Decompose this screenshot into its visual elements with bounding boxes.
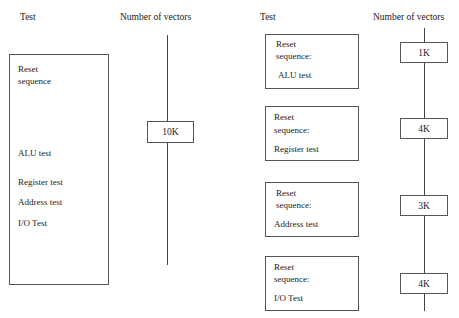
combined-test-box: Reset sequence ALU test Register test Ad…: [9, 54, 109, 285]
vector-count-box: 10K: [147, 121, 194, 143]
test-label: Reset: [276, 39, 296, 50]
test-box-alu: Reset sequence: ALU test: [265, 34, 359, 89]
left-test-header: Test: [20, 12, 36, 22]
test-label: sequence: [18, 76, 51, 87]
test-label: Address test: [274, 219, 318, 230]
test-box-register: Reset sequence: Register test: [265, 106, 359, 161]
vector-count-box: 4K: [400, 118, 448, 139]
vector-axis-line: [424, 28, 425, 311]
test-label: sequence:: [274, 125, 309, 136]
vector-count-box: 4K: [400, 273, 448, 294]
right-test-header: Test: [260, 12, 276, 22]
test-label: ALU test: [18, 148, 51, 159]
test-label: sequence:: [274, 274, 309, 285]
test-label: Reset: [276, 188, 296, 199]
vector-count-box: 3K: [400, 195, 448, 216]
test-box-io: Reset sequence: I/O Test: [265, 256, 359, 311]
test-box-address: Reset sequence: Address test: [265, 182, 359, 237]
vector-axis-line: [167, 35, 168, 265]
left-vectors-header: Number of vectors: [120, 12, 191, 22]
test-label: Reset: [274, 262, 294, 273]
test-label: sequence:: [276, 51, 311, 62]
test-label: ALU test: [278, 70, 311, 81]
test-label: sequence:: [276, 200, 311, 211]
test-label: Reset: [274, 112, 294, 123]
test-label: I/O Test: [274, 293, 303, 304]
right-vectors-header: Number of vectors: [373, 12, 444, 22]
test-label: Address test: [18, 197, 62, 208]
test-label: Register test: [18, 177, 63, 188]
test-label: Register test: [274, 144, 319, 155]
test-label: I/O Test: [18, 218, 47, 229]
test-label: Reset: [18, 64, 38, 75]
vector-count-box: 1K: [400, 42, 448, 63]
